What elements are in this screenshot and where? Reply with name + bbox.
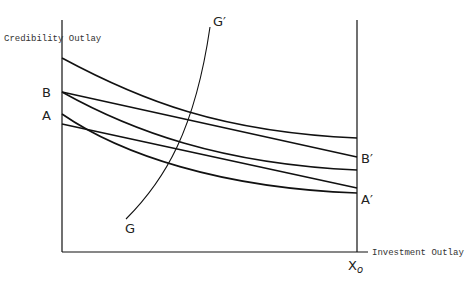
x-axis-label: Investment Outlay	[372, 248, 464, 258]
label-b: B	[42, 85, 51, 100]
label-x0-subscript: o	[357, 264, 363, 275]
upper-curve	[62, 58, 357, 138]
b-to-b-prime-line	[62, 92, 357, 157]
label-g-prime: G′	[213, 14, 226, 29]
lower-curve	[62, 114, 357, 193]
g-curve	[126, 27, 210, 219]
middle-curve	[62, 92, 357, 170]
a-to-a-prime-line	[62, 124, 357, 188]
label-x0: Xo	[348, 258, 363, 275]
label-a: A	[42, 108, 51, 123]
label-b-prime: B′	[361, 151, 373, 166]
label-a-prime: A′	[361, 192, 373, 207]
label-g: G	[125, 221, 135, 236]
diagram-canvas: Credibility Outlay Investment Outlay B A…	[0, 0, 472, 283]
label-x0-main: X	[348, 258, 357, 273]
y-axis-label: Credibility Outlay	[4, 34, 102, 44]
